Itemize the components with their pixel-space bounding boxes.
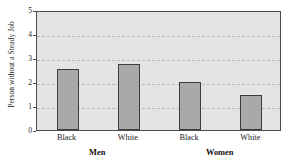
bar-men-white <box>118 64 140 130</box>
bars-layer <box>37 12 280 130</box>
x-tick-label-women-black: Black <box>159 134 219 142</box>
bar-women-black <box>179 82 201 130</box>
y-axis-tick-labels: 012345 <box>0 0 36 142</box>
bar-men-black <box>57 69 79 130</box>
y-tick-label-0: 0 <box>4 127 32 135</box>
x-tick-label-men-white: White <box>98 134 158 142</box>
x-group-label-men: Men <box>42 149 152 157</box>
y-tick-label-3: 3 <box>4 55 32 63</box>
x-tick-label-men-black: Black <box>37 134 97 142</box>
y-tick-label-5: 5 <box>4 7 32 15</box>
x-group-label-women: Women <box>165 149 275 157</box>
bar-women-white <box>240 95 262 130</box>
y-tick-label-4: 4 <box>4 31 32 39</box>
y-tick-mark-0 <box>33 131 36 132</box>
bar-chart-figure: Person without a Steady Job 012345 Black… <box>0 0 290 167</box>
y-tick-label-2: 2 <box>4 79 32 87</box>
y-tick-label-1: 1 <box>4 103 32 111</box>
x-tick-label-women-white: White <box>220 134 280 142</box>
plot-area <box>36 11 281 131</box>
